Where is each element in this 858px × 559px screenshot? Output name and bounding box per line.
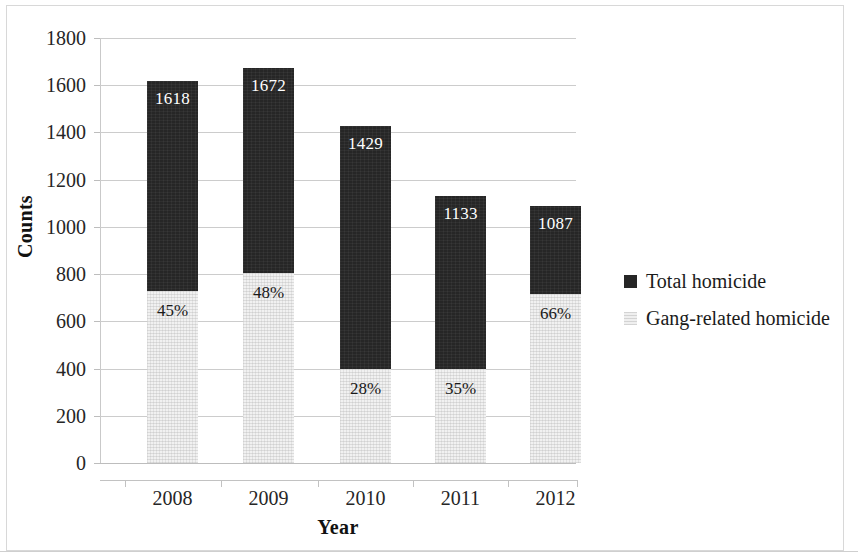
x-axis-tick-label: 2012: [511, 486, 601, 510]
x-axis-tick-mark: [221, 480, 222, 487]
legend-label: Total homicide: [646, 271, 766, 291]
y-axis-tick-label: 1400: [46, 122, 86, 142]
y-axis-tick-label: 0: [76, 453, 86, 473]
chart-figure: Counts 020040060080010001200140016001800…: [0, 0, 858, 559]
y-axis-tick-mark: [94, 38, 100, 39]
x-axis-tick-mark: [318, 480, 319, 487]
y-axis-tick-label: 1200: [46, 170, 86, 190]
x-axis-tick-mark: [413, 480, 414, 487]
x-axis-tick-mark: [508, 480, 509, 487]
bar-value-label-gang: 28%: [340, 380, 391, 397]
bar-value-label-total: 1133: [435, 205, 486, 222]
x-axis-tick-mark: [577, 480, 578, 487]
bar-group[interactable]: 142928%: [340, 38, 391, 463]
legend-label: Gang-related homicide: [646, 308, 830, 328]
bar-value-label-total: 1672: [243, 77, 294, 94]
y-axis-tick-mark: [94, 369, 100, 370]
x-axis-tick-labels: 20082009201020112012: [100, 486, 580, 516]
x-axis-tick-label: 2009: [224, 486, 314, 510]
y-axis-tick-mark: [94, 416, 100, 417]
y-axis-tick-mark: [94, 321, 100, 322]
bar-value-label-total: 1087: [530, 215, 581, 232]
y-axis-tick-mark: [94, 227, 100, 228]
x-axis-tick-label: 2010: [321, 486, 411, 510]
x-axis-line: [100, 480, 578, 481]
y-axis-tick-mark: [94, 274, 100, 275]
bar-group[interactable]: 161845%: [147, 38, 198, 463]
x-axis-title: Year: [0, 516, 676, 539]
y-axis-tick-label: 1000: [46, 217, 86, 237]
legend-swatch-icon: [624, 312, 637, 325]
y-axis-tick-mark: [94, 180, 100, 181]
bar-group[interactable]: 113335%: [435, 38, 486, 463]
bar-value-label-gang: 45%: [147, 302, 198, 319]
bar-value-label-gang: 66%: [530, 305, 581, 322]
legend-item[interactable]: Gang-related homicide: [624, 299, 852, 336]
legend-swatch-icon: [624, 275, 637, 288]
y-axis-tick-label: 800: [56, 264, 86, 284]
y-axis-tick-mark: [94, 132, 100, 133]
legend-item[interactable]: Total homicide: [624, 262, 852, 299]
x-axis-tick-mark: [125, 480, 126, 487]
bar-group[interactable]: 167248%: [243, 38, 294, 463]
gridline: [100, 463, 576, 464]
figure-bottom-rule: [0, 551, 858, 552]
y-axis-tick-mark: [94, 85, 100, 86]
plot-area: 161845%167248%142928%113335%108766%: [100, 38, 576, 463]
y-axis-tick-label: 200: [56, 406, 86, 426]
bar-value-label-total: 1429: [340, 135, 391, 152]
bar-group[interactable]: 108766%: [530, 38, 581, 463]
y-axis-tick-labels: 020040060080010001200140016001800: [0, 38, 94, 463]
bar-value-label-gang: 35%: [435, 380, 486, 397]
x-axis-tick-label: 2011: [416, 486, 506, 510]
x-axis-tick-label: 2008: [128, 486, 218, 510]
y-axis-tick-label: 1600: [46, 75, 86, 95]
chart-legend: Total homicideGang-related homicide: [624, 262, 852, 336]
bar-value-label-total: 1618: [147, 90, 198, 107]
bar-value-label-gang: 48%: [243, 284, 294, 301]
y-axis-tick-label: 400: [56, 359, 86, 379]
y-axis-tick-label: 600: [56, 311, 86, 331]
y-axis-tick-label: 1800: [46, 28, 86, 48]
y-axis-tick-mark: [94, 463, 100, 464]
